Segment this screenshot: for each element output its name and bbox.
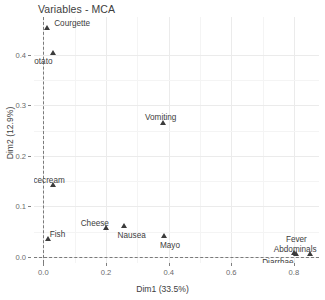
data-point-label: Courgette [54,20,90,28]
data-point-label: Nausea [118,232,146,240]
data-point-marker [307,251,313,256]
x-axis-tick-mark [106,263,107,266]
x-axis-tick-label: 0.2 [101,268,112,277]
y-axis-tick-label: 0.1 [15,202,26,211]
gridline-horizontal-minor [34,232,319,233]
y-axis-tick-mark [28,105,31,106]
y-axis-tick-label: 0.2 [15,152,26,161]
gridline-horizontal-minor [34,131,319,132]
gridline-vertical-minor [75,17,76,263]
data-point-label: Mayo [160,242,180,250]
gridline-horizontal [34,156,319,157]
data-point-marker [50,50,56,55]
x-axis: 0.00.20.40.60.8 [34,263,319,277]
x-axis-tick-mark [294,263,295,266]
gridline-vertical [169,17,170,263]
x-axis-title: Dim1 (33.5%) [0,284,325,294]
x-axis-tick-label: 0.8 [289,268,300,277]
gridline-horizontal-minor [34,181,319,182]
gridline-horizontal [34,55,319,56]
data-point-label: Icecream [34,177,65,185]
data-point-label: Potato [34,58,52,66]
data-point-label: Fish [50,231,65,239]
x-axis-tick-label: 0.4 [163,268,174,277]
data-point-marker [44,25,50,30]
data-point-label: Fever [286,236,307,244]
data-point-label: Vomiting [145,114,176,122]
gridline-horizontal-minor [34,80,319,81]
y-axis-tick-mark [28,206,31,207]
data-point-marker [121,223,127,228]
x-axis-tick-mark [231,263,232,266]
gridline-horizontal [34,105,319,106]
y-axis-tick-label: 0.4 [15,51,26,60]
y-axis-tick-mark [28,55,31,56]
y-axis-title: Dim2 (12.9%) [5,107,15,160]
gridline-horizontal [34,206,319,207]
gridline-vertical-minor [137,17,138,263]
gridline-vertical [231,17,232,263]
y-axis-tick-mark [28,156,31,157]
y-axis-tick-label: 0.3 [15,101,26,110]
gridline-vertical-minor [263,17,264,263]
data-point-marker [161,233,167,238]
x-axis-tick-label: 0.0 [38,268,49,277]
y-axis-tick-label: 0.0 [15,253,26,262]
x-axis-tick-mark [169,263,170,266]
x-axis-tick-label: 0.6 [226,268,237,277]
plot-panel: CourgettePotatoVomitingIcecreamCheeseNau… [34,17,319,263]
chart-title: Variables - MCA [38,3,115,15]
y-axis-tick-mark [28,257,31,258]
x-axis-tick-mark [43,263,44,266]
gridline-vertical-minor [200,17,201,263]
mca-variables-chart: Variables - MCA CourgettePotatoVomitingI… [0,0,325,300]
gridline-vertical [294,17,295,263]
reference-line-vertical [43,17,44,263]
data-point-label: Cheese [81,220,109,228]
